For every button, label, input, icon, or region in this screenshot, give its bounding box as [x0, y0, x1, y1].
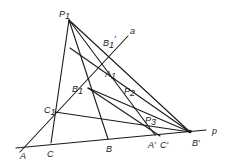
- label-p: p: [211, 126, 217, 136]
- label-bprime: B′: [192, 138, 200, 148]
- label-cprime: C′: [160, 140, 168, 150]
- label-a1: A1: [104, 69, 116, 81]
- point-bprime-marker: [188, 130, 192, 134]
- label-p1: P1: [59, 9, 70, 21]
- line-c1-bprime: [55, 112, 190, 132]
- line-a: [20, 36, 128, 152]
- label-b: B: [106, 144, 112, 154]
- projective-geometry-diagram: P1 B1′ a A1 B1 P2 C1 P3 A C B A′ C′ B′ p: [0, 0, 227, 164]
- label-aprime: A′: [147, 140, 156, 150]
- label-c1: C1: [44, 105, 56, 117]
- label-b1-prime: B1′: [103, 34, 116, 50]
- label-a: a: [130, 26, 135, 36]
- line-p1-c: [51, 20, 69, 143]
- label-a: A: [19, 151, 26, 161]
- label-c: C: [47, 149, 54, 159]
